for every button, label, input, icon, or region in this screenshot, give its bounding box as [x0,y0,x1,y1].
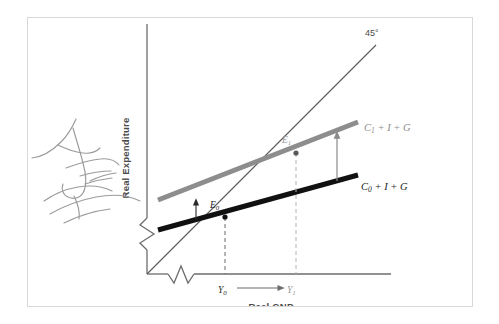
x-tick-label-y1-subscript: 1 [292,289,295,296]
y-axis-break-zigzag-icon [140,218,154,250]
x-tick-label-y0: Y0 [218,285,227,296]
curve-label-initial-rest: + I + G [372,181,408,192]
curve-label-shifted: C1 + I + G [364,122,411,135]
curve-label-initial: C0 + I + G [361,181,408,194]
equilibrium-label-new: E1 [281,135,291,146]
figure-frame-border: 45° C1 + I + G C0 + I + G E1 E0 Y0 [27,17,473,307]
keynesian-cross-chart: 45° C1 + I + G C0 + I + G E1 E0 Y0 [28,18,472,306]
equilibrium-label-initial: E0 [209,200,220,211]
equilibrium-label-initial-subscript: 0 [216,204,220,211]
equilibrium-point-new-marker [293,150,298,155]
x-tick-label-y0-subscript: 0 [223,289,227,296]
expenditure-line-shifted [158,122,358,200]
y-axis-title: Real Expenditure [120,118,131,199]
forty-five-degree-label: 45° [365,28,379,38]
equilibrium-label-new-subscript: 1 [288,139,291,146]
expenditure-line-initial [158,175,358,230]
curve-label-shifted-rest: + I + G [375,122,411,133]
x-axis-title: Real GNP [249,301,294,306]
figure-root: 45° C1 + I + G C0 + I + G E1 E0 Y0 [0,0,499,324]
x-axis-break-zigzag-icon [168,266,194,283]
equilibrium-point-initial-marker [222,214,227,219]
x-tick-label-y1: Y1 [287,285,296,296]
